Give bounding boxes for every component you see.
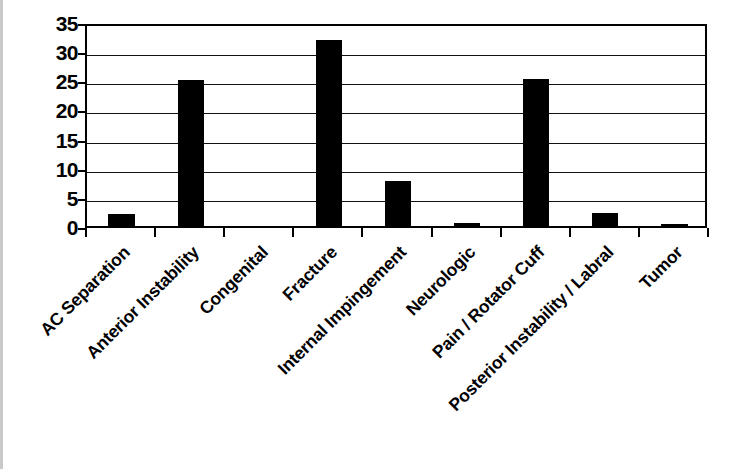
x-tick-mark <box>361 228 363 237</box>
bar-chart: 05101520253035 AC SeparationAnterior Ins… <box>0 0 744 469</box>
y-tick-mark <box>78 53 86 55</box>
y-tick-label: 30 <box>56 42 78 63</box>
bar <box>454 223 480 226</box>
x-tick-mark <box>431 228 433 237</box>
gridline <box>87 55 705 56</box>
bar <box>523 79 549 226</box>
y-tick-label: 10 <box>56 159 78 180</box>
y-tick-label: 5 <box>67 188 78 209</box>
x-tick-mark <box>292 228 294 237</box>
x-tick-mark <box>569 228 571 237</box>
bar <box>108 214 134 226</box>
bar <box>178 80 204 226</box>
y-tick-label: 20 <box>56 100 78 121</box>
plot-area <box>85 24 707 228</box>
y-tick-label: 25 <box>56 71 78 92</box>
y-tick-mark <box>78 111 86 113</box>
y-tick-label: 0 <box>67 217 78 238</box>
y-tick-mark <box>78 228 86 230</box>
y-tick-mark <box>78 199 86 201</box>
y-tick-label: 35 <box>56 13 78 34</box>
y-tick-mark <box>78 170 86 172</box>
y-tick-mark <box>78 82 86 84</box>
x-tick-mark <box>638 228 640 237</box>
y-tick-label: 15 <box>56 130 78 151</box>
y-tick-mark <box>78 24 86 26</box>
x-tick-mark <box>707 228 709 237</box>
bar <box>592 213 618 226</box>
x-tick-mark <box>154 228 156 237</box>
x-tick-mark <box>500 228 502 237</box>
x-tick-mark <box>223 228 225 237</box>
bar <box>385 181 411 226</box>
bar <box>661 224 687 226</box>
y-tick-mark <box>78 141 86 143</box>
bar <box>316 40 342 227</box>
y-axis-tick-labels: 05101520253035 <box>0 0 78 469</box>
